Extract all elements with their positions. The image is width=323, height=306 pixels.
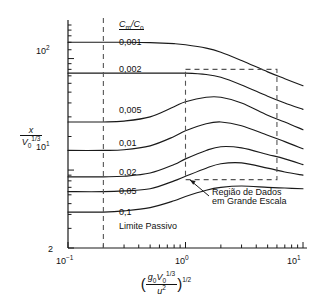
y-tick-10-base: 10 [36, 142, 46, 152]
x-tick-mid-base: 10 [175, 256, 185, 266]
x-tick-label-10: 101 [287, 255, 301, 266]
legend-title: Cm/Co [119, 20, 144, 32]
region-annotation-line2: em Grande Escala [212, 196, 287, 206]
x-tick-label-1: 100 [175, 255, 189, 266]
y-tick-label-100: 102 [36, 45, 50, 56]
y-tick-label-10: 101 [36, 141, 50, 152]
curve-label-0.02: 0,02 [119, 168, 137, 177]
curve-label-0.002: 0,002 [119, 65, 142, 74]
region-annotation-label: Região de Dados em Grande Escala [212, 188, 287, 207]
y-tick-label-2: 2 [48, 245, 53, 254]
curve-label-0.01: 0,01 [119, 139, 137, 148]
y-tick-100-exp: 2 [46, 44, 50, 51]
curve-label-0.001: 0,001 [119, 38, 142, 47]
curve-label-0.005: 0,005 [119, 106, 142, 115]
x-tick-mid-exp: 0 [185, 254, 189, 261]
x-label-u-sup: 2 [162, 284, 166, 291]
curve-label-0.05: 0,05 [119, 187, 137, 196]
legend-title-slash: /C [131, 19, 140, 29]
chart-figure: x V01/3 ( g0V01/3 u2 )1/2 Cm/Co 2 101 10… [0, 0, 323, 306]
curve-label-0.1: 0,1 [119, 208, 132, 217]
x-tick-label-0.1: 10−1 [56, 255, 73, 266]
legend-title-o: o [140, 24, 144, 31]
passive-limit-label: Limite Passivo [119, 222, 177, 231]
y-axis-label-den-sub: 0 [28, 142, 32, 149]
x-label-outer-sup: 1/2 [182, 276, 191, 283]
x-tick-lo-exp: −1 [66, 254, 73, 261]
x-tick-hi-base: 10 [287, 256, 297, 266]
y-tick-100-base: 10 [36, 46, 46, 56]
x-label-v-sup: 1/3 [166, 270, 175, 277]
x-tick-hi-exp: 1 [297, 254, 301, 261]
x-axis-label: ( g0V01/3 u2 )1/2 [118, 271, 214, 296]
x-label-v-sub: 0 [162, 277, 166, 284]
x-tick-lo-base: 10 [56, 256, 66, 266]
y-tick-10-exp: 1 [46, 140, 50, 147]
